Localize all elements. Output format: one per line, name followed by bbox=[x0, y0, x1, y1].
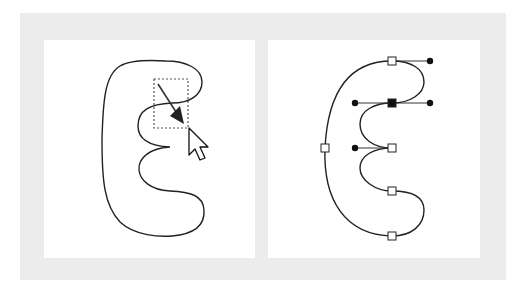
handle-point bbox=[352, 145, 358, 151]
anchor-point bbox=[321, 144, 329, 152]
left-panel bbox=[44, 40, 255, 258]
anchor-point bbox=[388, 232, 396, 240]
path-shape-right bbox=[268, 40, 480, 258]
arrow-pointer-icon bbox=[189, 128, 208, 160]
anchor-point bbox=[388, 144, 396, 152]
handle-point bbox=[427, 100, 433, 106]
path-shape-left bbox=[44, 40, 255, 258]
right-panel bbox=[268, 40, 480, 258]
anchor-point-selected bbox=[388, 99, 396, 107]
anchor-point bbox=[388, 187, 396, 195]
anchor-point bbox=[388, 57, 396, 65]
handle-point bbox=[352, 100, 358, 106]
handle-point bbox=[427, 58, 433, 64]
